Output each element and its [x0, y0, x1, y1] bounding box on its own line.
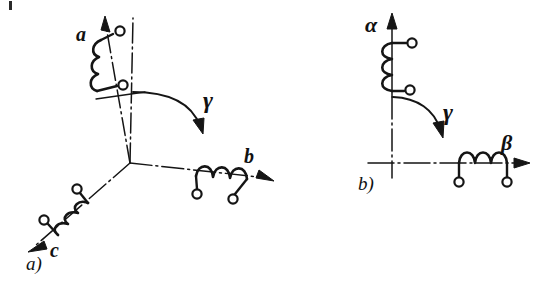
winding-beta — [454, 153, 511, 187]
winding-b-terminal-right — [228, 194, 237, 203]
axis-c-line — [36, 163, 130, 245]
winding-c-terminal-bottom — [39, 215, 48, 224]
axis-beta-arrowhead — [514, 158, 530, 168]
winding-b-terminal-left — [192, 189, 201, 198]
winding-a-terminal-bottom — [118, 80, 127, 89]
winding-a-coil — [91, 40, 101, 91]
winding-a — [91, 26, 128, 91]
axis-label-b: b — [244, 146, 254, 166]
winding-alpha-terminal-top — [407, 38, 416, 47]
gamma-arc-b — [393, 97, 440, 129]
gamma-arc-a — [133, 92, 200, 126]
winding-beta-terminal-right — [502, 177, 511, 186]
axis-b-arrowhead — [256, 170, 274, 181]
axis-c-arrowhead — [28, 241, 47, 252]
axis-alpha-arrowhead — [387, 13, 397, 29]
axis-label-c: c — [50, 240, 59, 260]
winding-c — [39, 184, 88, 235]
winding-c-coil — [55, 202, 88, 235]
axis-a-arrowhead — [101, 16, 110, 32]
axis-label-a: a — [76, 24, 86, 44]
winding-alpha-terminal-bottom — [405, 85, 414, 94]
winding-b-lead-right — [235, 179, 247, 194]
winding-b — [192, 166, 247, 203]
gamma-arrowhead-a — [193, 118, 204, 134]
winding-beta-terminal-left — [454, 177, 463, 186]
winding-alpha-coil — [382, 43, 392, 91]
winding-b-lead-left — [196, 176, 197, 189]
gamma-label-b: γ — [443, 100, 453, 124]
caption-a: a) — [26, 254, 42, 273]
axis-label-beta: β — [501, 132, 512, 154]
panel-a-group — [28, 16, 274, 252]
gamma-label-a: γ — [203, 88, 213, 112]
vertical-reference-line — [130, 18, 133, 163]
axis-label-alpha: α — [365, 14, 377, 36]
winding-beta-coil — [459, 153, 507, 164]
caption-b: b) — [358, 174, 374, 193]
figure-root: a b c γ a) α β γ b) — [0, 0, 536, 297]
winding-a-lead-bottom — [97, 86, 117, 91]
winding-c-terminal-top — [72, 184, 81, 193]
winding-a-terminal-top — [115, 26, 124, 35]
winding-alpha — [382, 38, 416, 94]
